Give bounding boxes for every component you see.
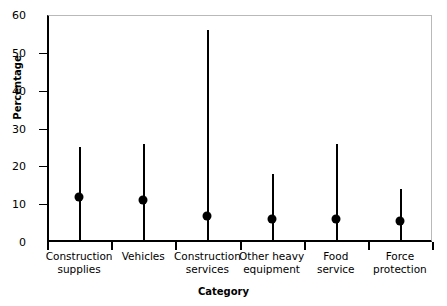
y-axis-tick-label: 60 [0, 10, 26, 21]
plot-area [47, 15, 432, 242]
x-axis-tick-mark [47, 242, 49, 250]
y-axis-tick-label: 0 [0, 237, 26, 248]
y-axis-tick-label: 40 [0, 85, 26, 96]
x-axis-category-label: Force protection [373, 250, 427, 275]
x-axis-category-label: Vehicles [122, 250, 165, 263]
data-point-marker [203, 211, 212, 220]
x-axis-category-label: Construction supplies [46, 250, 113, 275]
y-axis-tick-mark [39, 129, 48, 130]
error-bar [143, 144, 145, 242]
x-axis-tick-mark [175, 242, 177, 250]
x-axis-tick-mark [304, 242, 306, 250]
data-point-marker [139, 196, 148, 205]
y-axis-tick-label: 10 [0, 199, 26, 210]
x-axis-category-label: Other heavy equipment [239, 250, 304, 275]
y-axis-tick-mark [39, 166, 48, 167]
y-axis-tick-label: 50 [0, 47, 26, 58]
y-axis-tick-label: 30 [0, 123, 26, 134]
error-bar [400, 189, 402, 242]
y-axis-tick-mark [39, 53, 48, 54]
data-point-marker [331, 215, 340, 224]
y-axis-tick-label: 20 [0, 161, 26, 172]
x-axis-tick-mark [111, 242, 113, 250]
x-axis-tick-mark [240, 242, 242, 250]
data-point-marker [75, 192, 84, 201]
y-axis-tick-mark [39, 204, 48, 205]
y-axis-tick-mark [39, 91, 48, 92]
x-axis-category-label: Food service [317, 250, 355, 275]
x-axis-title: Category [0, 286, 447, 297]
data-point-marker [267, 215, 276, 224]
x-axis-tick-mark [368, 242, 370, 250]
chart-container: Percentage 0102030405060 Construction su… [0, 0, 447, 306]
error-bar [272, 174, 274, 242]
x-axis-category-label: Construction services [174, 250, 241, 275]
x-axis-tick-mark [432, 242, 434, 250]
data-point-marker [395, 217, 404, 226]
error-bar [336, 144, 338, 242]
